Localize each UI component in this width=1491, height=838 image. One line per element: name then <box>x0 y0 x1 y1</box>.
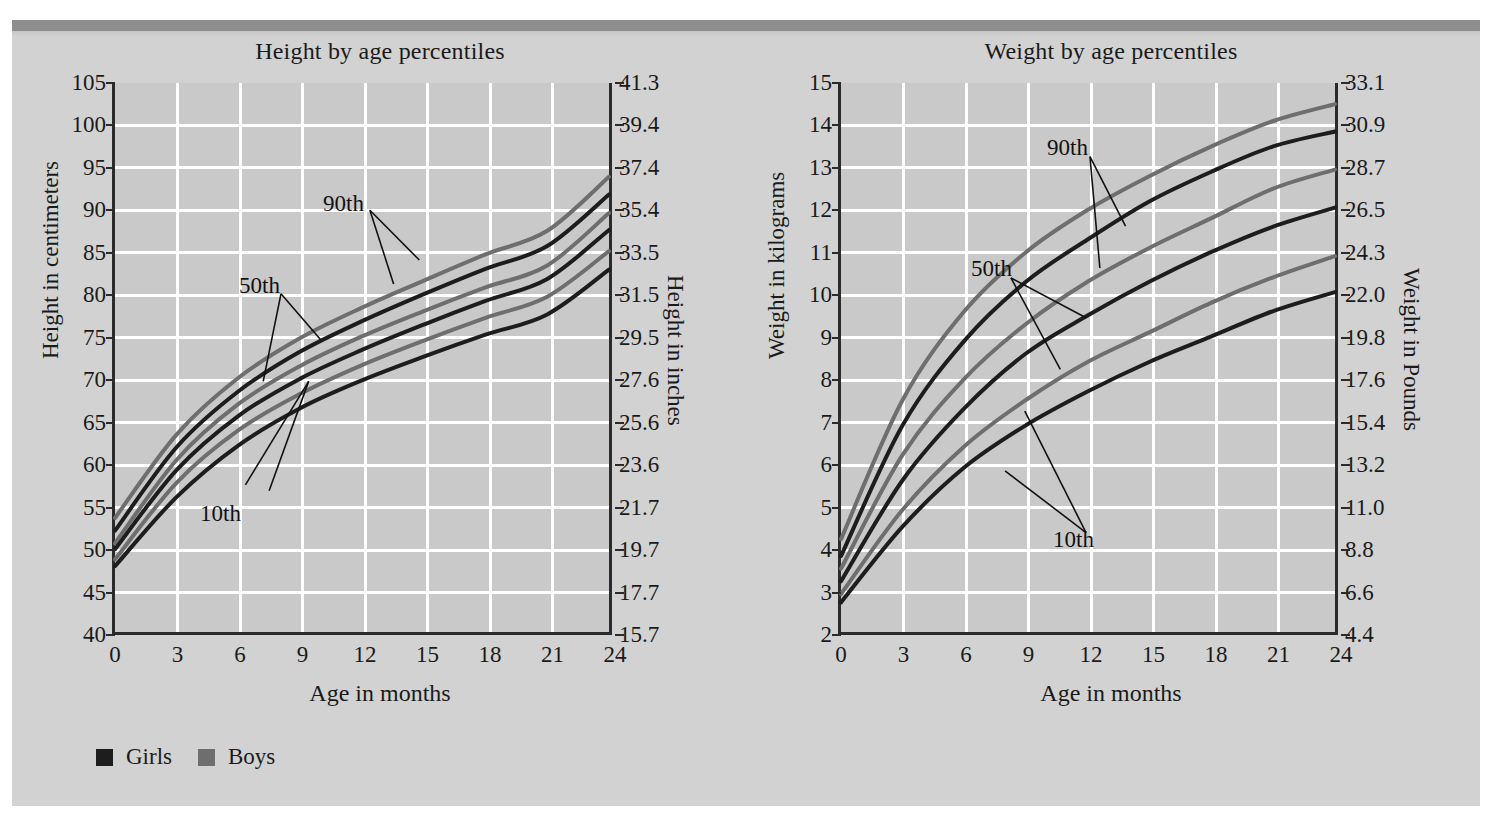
y-axis-tick-label: 2 <box>821 622 833 648</box>
x-axis-tick-label: 18 <box>1205 642 1228 668</box>
weight-chart-title: Weight by age percentiles <box>766 38 1456 65</box>
legend-item-boys: Boys <box>198 744 275 770</box>
y2-axis-tick-label: 11.0 <box>1345 495 1384 521</box>
y2-axis-tick-mark <box>1341 464 1350 466</box>
weight-plot-area: 15141312111098765432 33.130.928.726.524.… <box>838 83 1338 635</box>
y2-axis-tick-mark <box>1341 337 1350 339</box>
y2-axis-tick-label: 37.4 <box>619 155 659 181</box>
y-axis-tick-label: 95 <box>83 155 106 181</box>
y2-axis-tick-label: 15.4 <box>1345 410 1385 436</box>
figure-legend: Girls Boys <box>96 744 275 770</box>
legend-label-girls: Girls <box>126 744 172 770</box>
y2-axis-tick-mark <box>615 422 624 424</box>
y2-axis-tick-label: 29.5 <box>619 325 659 351</box>
y2-axis-tick-label: 21.7 <box>619 495 659 521</box>
y-axis-tick-label: 80 <box>83 282 106 308</box>
legend-label-boys: Boys <box>228 744 275 770</box>
y-axis-tick-label: 55 <box>83 495 106 521</box>
y2-axis-tick-mark <box>1341 422 1350 424</box>
y-axis-tick-label: 70 <box>83 367 106 393</box>
y2-axis-tick-mark <box>1341 507 1350 509</box>
height-y-axis-title-right: Height in inches <box>662 275 688 426</box>
x-axis-tick-label: 3 <box>898 642 910 668</box>
y-axis-tick-label: 10 <box>809 282 832 308</box>
x-axis-tick-label: 0 <box>109 642 121 668</box>
y-axis-tick-mark <box>106 167 115 169</box>
y2-axis-tick-mark <box>1341 82 1350 84</box>
y2-axis-tick-label: 23.6 <box>619 452 659 478</box>
y-axis-tick-mark <box>832 209 841 211</box>
y-axis-tick-mark <box>106 379 115 381</box>
y-axis-tick-mark <box>832 252 841 254</box>
y-axis-tick-mark <box>832 124 841 126</box>
x-axis-tick-label: 9 <box>1023 642 1035 668</box>
y-axis-tick-mark <box>106 422 115 424</box>
y-axis-tick-mark <box>832 167 841 169</box>
y-axis-tick-mark <box>832 549 841 551</box>
height-chart: Height by age percentiles 10510095908580… <box>40 0 720 786</box>
legend-item-girls: Girls <box>96 744 172 770</box>
y-axis-tick-label: 8 <box>821 367 833 393</box>
y-axis-tick-label: 65 <box>83 410 106 436</box>
y2-axis-tick-mark <box>615 294 624 296</box>
y2-axis-tick-label: 27.6 <box>619 367 659 393</box>
y-axis-tick-label: 50 <box>83 537 106 563</box>
y-axis-tick-mark <box>832 507 841 509</box>
height-annotation-leaders <box>115 83 609 632</box>
y-axis-tick-mark <box>832 337 841 339</box>
y2-axis-tick-label: 28.7 <box>1345 155 1385 181</box>
weight-chart: Weight by age percentiles 15141312111098… <box>766 0 1456 786</box>
y2-axis-tick-mark <box>1341 252 1350 254</box>
x-axis-tick-label: 24 <box>604 642 627 668</box>
y-axis-tick-mark <box>832 634 841 636</box>
y-axis-tick-label: 9 <box>821 325 833 351</box>
x-axis-tick-label: 24 <box>1330 642 1353 668</box>
x-axis-tick-label: 15 <box>416 642 439 668</box>
y-axis-tick-mark <box>832 82 841 84</box>
y2-axis-tick-mark <box>615 337 624 339</box>
legend-swatch-girls-icon <box>96 749 113 766</box>
y-axis-tick-label: 3 <box>821 580 833 606</box>
y2-axis-tick-label: 39.4 <box>619 112 659 138</box>
x-axis-tick-label: 3 <box>172 642 184 668</box>
weight-annotation-leaders <box>841 83 1335 632</box>
y2-axis-tick-mark <box>615 549 624 551</box>
y2-axis-tick-mark <box>615 507 624 509</box>
weight-y-axis-title-right: Weight in Pounds <box>1398 268 1424 431</box>
height-plot-area: 105100959085807570656055504540 41.339.43… <box>112 83 612 635</box>
x-axis-tick-label: 6 <box>234 642 246 668</box>
y-axis-tick-mark <box>106 209 115 211</box>
y-axis-tick-mark <box>106 592 115 594</box>
y2-axis-tick-label: 41.3 <box>619 70 659 96</box>
y-axis-tick-label: 90 <box>83 197 106 223</box>
y-axis-tick-label: 85 <box>83 240 106 266</box>
y-axis-tick-label: 15 <box>809 70 832 96</box>
y2-axis-tick-mark <box>1341 634 1350 636</box>
height-y-axis-title-left: Height in centimeters <box>38 161 64 359</box>
x-axis-tick-label: 21 <box>541 642 564 668</box>
y2-axis-tick-mark <box>615 592 624 594</box>
y-axis-tick-label: 5 <box>821 495 833 521</box>
y2-axis-tick-label: 13.2 <box>1345 452 1385 478</box>
y2-axis-tick-mark <box>615 634 624 636</box>
y-axis-tick-mark <box>832 464 841 466</box>
y-axis-tick-mark <box>106 549 115 551</box>
y-axis-tick-mark <box>106 82 115 84</box>
y-axis-tick-mark <box>832 379 841 381</box>
y-axis-tick-mark <box>106 124 115 126</box>
y-axis-tick-label: 45 <box>83 580 106 606</box>
weight-x-axis-title: Age in months <box>766 680 1456 707</box>
y2-axis-tick-mark <box>1341 379 1350 381</box>
weight-y-axis-title-left: Weight in kilograms <box>764 172 790 359</box>
y2-axis-tick-label: 33.5 <box>619 240 659 266</box>
y-axis-tick-mark <box>106 634 115 636</box>
x-axis-tick-label: 12 <box>1080 642 1103 668</box>
y-axis-tick-mark <box>106 337 115 339</box>
legend-swatch-boys-icon <box>198 749 215 766</box>
y2-axis-tick-label: 33.1 <box>1345 70 1385 96</box>
y2-axis-tick-mark <box>615 167 624 169</box>
y2-axis-tick-mark <box>615 379 624 381</box>
y-axis-tick-label: 13 <box>809 155 832 181</box>
y2-axis-tick-label: 19.7 <box>619 537 659 563</box>
y2-axis-tick-mark <box>1341 167 1350 169</box>
